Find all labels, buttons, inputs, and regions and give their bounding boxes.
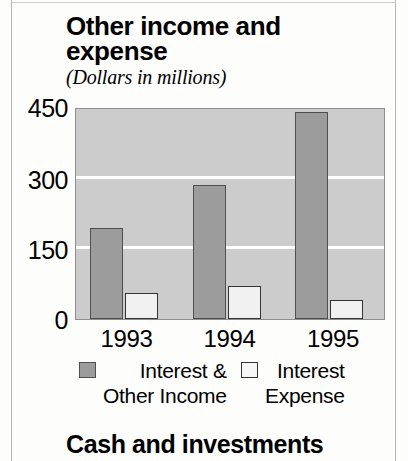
y-axis-labels: 450 300 150 0	[0, 0, 68, 461]
bar-1993-series1	[90, 228, 123, 319]
bar-group-1993	[76, 109, 179, 319]
legend-label-interest-expense: Interest Expense	[265, 358, 345, 408]
bars-layer	[76, 109, 384, 319]
legend-swatch-interest-other-income	[79, 362, 96, 378]
legend-label-line2: Expense	[265, 383, 345, 408]
y-tick-0: 0	[6, 308, 68, 333]
legend-label-line1: Interest	[277, 359, 345, 382]
chart-subtitle: (Dollars in millions)	[66, 66, 366, 88]
bar-1995-series2	[330, 300, 363, 319]
x-tick-1994: 1994	[178, 325, 281, 353]
chart-legend: Interest & Other Income Interest Expense	[75, 358, 395, 414]
y-tick-150: 150	[6, 238, 68, 263]
plot-area	[75, 108, 385, 320]
bar-1995-series1	[295, 112, 328, 319]
chart-figure: Other income and expense (Dollars in mil…	[0, 0, 408, 461]
y-tick-300: 300	[6, 168, 68, 193]
x-axis-labels: 1993 1994 1995	[75, 325, 385, 355]
bar-group-1995	[281, 109, 384, 319]
bar-1993-series2	[125, 293, 158, 319]
x-tick-1995: 1995	[281, 325, 385, 353]
next-section-heading: Cash and investments	[66, 430, 396, 458]
bar-1994-series2	[228, 286, 261, 319]
legend-swatch-interest-expense	[241, 362, 258, 378]
bar-1994-series1	[193, 185, 226, 319]
x-tick-1993: 1993	[75, 325, 178, 353]
legend-label-line2: Other Income	[103, 383, 227, 408]
bar-group-1994	[179, 109, 282, 319]
y-tick-450: 450	[6, 96, 68, 121]
chart-title: Other income and expense	[66, 14, 366, 64]
legend-label-line1: Interest &	[140, 359, 227, 382]
legend-label-interest-other-income: Interest & Other Income	[103, 358, 227, 408]
